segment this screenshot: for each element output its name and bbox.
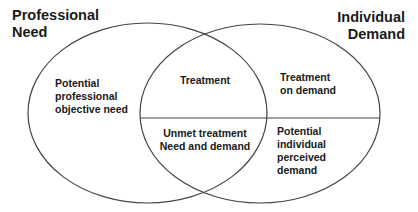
label-line: Demand: [337, 26, 405, 43]
region-text: Potential: [55, 77, 128, 90]
region-text: perceived: [277, 151, 326, 164]
region-overlap-bottom: Unmet treatment Need and demand: [155, 127, 255, 153]
label-line: Professional: [12, 7, 99, 24]
professional-need-label: Professional Need: [12, 7, 99, 41]
region-professional-only: Potential professional objective need: [55, 77, 128, 116]
region-text: Unmet treatment: [155, 127, 255, 140]
region-text: Treatment: [165, 74, 245, 87]
region-text: Treatment: [280, 71, 336, 84]
region-text: Potential: [277, 125, 326, 138]
region-text: on demand: [280, 84, 336, 97]
region-text: objective need: [55, 103, 128, 116]
region-overlap-top: Treatment: [165, 74, 245, 87]
label-line: Need: [12, 24, 99, 41]
individual-demand-label: Individual Demand: [337, 9, 405, 43]
region-individual-top: Treatment on demand: [280, 71, 336, 97]
region-individual-bottom: Potential individual perceived demand: [277, 125, 326, 177]
region-text: professional: [55, 90, 128, 103]
region-text: demand: [277, 164, 326, 177]
region-text: Need and demand: [155, 140, 255, 153]
individual-demand-ellipse: [140, 24, 380, 203]
label-line: Individual: [337, 9, 405, 26]
region-text: individual: [277, 138, 326, 151]
